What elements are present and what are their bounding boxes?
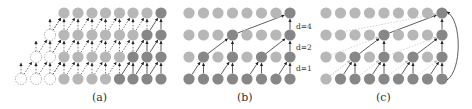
edge-arrow xyxy=(122,62,130,74)
inactive-node xyxy=(58,29,69,40)
inactive-node xyxy=(378,7,389,18)
inactive-node xyxy=(241,7,252,18)
inactive-node xyxy=(198,29,209,40)
inactive-node xyxy=(270,51,281,62)
inactive-node xyxy=(335,51,346,62)
residual-loop-arrow xyxy=(447,12,458,80)
inactive-node xyxy=(114,51,125,62)
edge-arrow xyxy=(402,62,410,74)
inactive-node xyxy=(100,29,111,40)
inactive-node xyxy=(212,29,223,40)
inactive-node xyxy=(227,7,238,18)
edge-arrow xyxy=(39,40,47,52)
edge-arrow xyxy=(81,40,89,52)
active-node xyxy=(393,73,404,84)
active-node xyxy=(436,7,447,18)
padding-node xyxy=(15,73,26,84)
active-node xyxy=(227,29,238,40)
active-node xyxy=(335,73,346,84)
dilation-label-2: d=2 xyxy=(296,43,312,52)
edge-arrow xyxy=(95,18,103,30)
edge-arrow xyxy=(81,62,89,74)
active-node xyxy=(114,73,125,84)
active-node xyxy=(155,7,166,18)
active-node xyxy=(256,51,267,62)
edge-arrow xyxy=(53,18,61,30)
active-node xyxy=(127,73,138,84)
active-node xyxy=(155,51,166,62)
inactive-node xyxy=(422,51,433,62)
active-node xyxy=(349,51,360,62)
edge-arrow xyxy=(221,62,229,74)
edge-arrow xyxy=(109,62,117,74)
inactive-node xyxy=(256,29,267,40)
inactive-node xyxy=(58,73,69,84)
panel-b: d=4 d=2 d=1 (b) xyxy=(183,7,312,104)
active-node xyxy=(127,51,138,62)
inactive-node xyxy=(335,7,346,18)
inactive-node xyxy=(72,51,83,62)
active-node xyxy=(284,29,295,40)
edge-arrow xyxy=(53,40,61,52)
inactive-node xyxy=(349,29,360,40)
active-node xyxy=(407,51,418,62)
inactive-node xyxy=(320,7,331,18)
edge-arrow xyxy=(431,62,439,74)
inactive-node xyxy=(241,51,252,62)
inactive-node xyxy=(100,7,111,18)
inactive-node xyxy=(364,7,375,18)
active-node xyxy=(241,73,252,84)
inactive-node xyxy=(127,29,138,40)
edge-arrow xyxy=(39,62,47,74)
inactive-node xyxy=(407,29,418,40)
inactive-node xyxy=(241,29,252,40)
padding-node xyxy=(44,29,55,40)
active-node xyxy=(284,73,295,84)
active-node xyxy=(270,73,281,84)
active-node xyxy=(155,29,166,40)
inactive-node xyxy=(422,29,433,40)
edge-arrow xyxy=(417,39,437,54)
inactive-node xyxy=(349,7,360,18)
edge-arrow xyxy=(266,39,285,54)
edge-arrow xyxy=(208,39,228,54)
active-node xyxy=(198,51,209,62)
inactive-node xyxy=(422,7,433,18)
panel-c-caption: (c) xyxy=(376,91,391,104)
inactive-node xyxy=(320,73,331,84)
inactive-node xyxy=(183,29,194,40)
tcn-dilation-diagram: (a) d=4 d=2 d=1 (b) (c) xyxy=(0,0,472,109)
inactive-node xyxy=(212,51,223,62)
inactive-node xyxy=(72,7,83,18)
active-node xyxy=(407,73,418,84)
edge-arrow xyxy=(359,39,379,54)
dilation-label-1: d=1 xyxy=(296,64,312,73)
active-node xyxy=(155,73,166,84)
inactive-node xyxy=(114,7,125,18)
edge-arrow xyxy=(373,62,381,74)
inactive-node xyxy=(72,29,83,40)
padding-node xyxy=(44,73,55,84)
panel-c: (c) xyxy=(320,7,458,104)
inactive-node xyxy=(183,7,194,18)
inactive-node xyxy=(256,7,267,18)
padding-node xyxy=(44,51,55,62)
inactive-node xyxy=(58,51,69,62)
edge-arrow xyxy=(53,62,61,74)
inactive-node xyxy=(183,51,194,62)
inactive-node xyxy=(407,7,418,18)
active-node xyxy=(378,73,389,84)
edge-arrow xyxy=(192,62,200,74)
inactive-node xyxy=(212,7,223,18)
edge-arrow xyxy=(24,62,32,74)
inactive-node xyxy=(141,7,152,18)
active-node xyxy=(141,73,152,84)
inactive-node xyxy=(100,73,111,84)
edge-arrow xyxy=(95,40,103,52)
edge-arrow xyxy=(250,62,258,74)
active-node xyxy=(378,29,389,40)
inactive-node xyxy=(320,51,331,62)
inactive-node xyxy=(86,51,97,62)
inactive-node xyxy=(86,73,97,84)
edge-arrow xyxy=(67,62,75,74)
